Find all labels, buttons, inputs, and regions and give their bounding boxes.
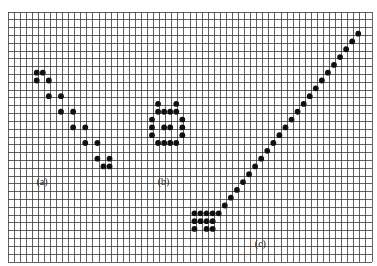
live-cell-dot (167, 124, 173, 130)
pattern-a (34, 70, 113, 170)
live-cell-dot (258, 156, 264, 162)
live-cell-dot (155, 109, 161, 115)
live-cell-dot (173, 140, 179, 146)
live-cell-dot (277, 132, 283, 138)
live-cell-dot (270, 140, 276, 146)
grid-lines (8, 12, 372, 262)
label-b: (b) (158, 176, 170, 188)
live-cell-dot (234, 187, 240, 193)
live-cell-dot (70, 124, 76, 130)
live-cell-dot (70, 109, 76, 115)
live-cell-dot (295, 109, 301, 115)
live-cell-dot (82, 124, 88, 130)
live-cell-dot (204, 210, 210, 216)
live-cell-dot (173, 101, 179, 107)
live-cell-dot (161, 124, 167, 130)
pattern-b (149, 101, 185, 146)
live-cell-dot (107, 164, 113, 170)
pattern-dots (34, 31, 361, 232)
live-cell-dot (173, 109, 179, 115)
live-cell-dot (319, 78, 325, 84)
live-cell-dot (107, 156, 113, 162)
live-cell-dot (289, 117, 295, 123)
live-cell-dot (349, 39, 355, 45)
live-cell-dot (210, 210, 216, 216)
live-cell-dot (216, 210, 222, 216)
live-cell-dot (222, 203, 228, 209)
live-cell-dot (34, 70, 40, 76)
live-cell-dot (228, 195, 234, 201)
live-cell-dot (179, 117, 185, 123)
live-cell-dot (210, 226, 216, 232)
label-a: (a) (36, 176, 47, 188)
live-cell-dot (204, 226, 210, 232)
live-cell-dot (161, 109, 167, 115)
live-cell-dot (264, 148, 270, 154)
live-cell-dot (252, 164, 258, 170)
live-cell-dot (198, 218, 204, 224)
live-cell-dot (95, 156, 101, 162)
live-cell-dot (101, 164, 107, 170)
live-cell-dot (204, 218, 210, 224)
live-cell-dot (179, 124, 185, 130)
live-cell-dot (149, 132, 155, 138)
live-cell-dot (343, 46, 349, 52)
live-cell-dot (149, 124, 155, 130)
live-cell-dot (192, 218, 198, 224)
live-cell-dot (34, 78, 40, 84)
live-cell-dot (240, 179, 246, 185)
live-cell-dot (283, 124, 289, 130)
live-cell-dot (337, 54, 343, 60)
live-cell-dot (167, 140, 173, 146)
live-cell-dot (307, 93, 313, 99)
live-cell-dot (161, 140, 167, 146)
live-cell-dot (40, 70, 46, 76)
live-cell-dot (149, 117, 155, 123)
live-cell-dot (167, 109, 173, 115)
live-cell-dot (210, 218, 216, 224)
live-cell-dot (198, 210, 204, 216)
live-cell-dot (46, 78, 52, 84)
live-cell-dot (155, 101, 161, 107)
live-cell-dot (95, 140, 101, 146)
live-cell-dot (192, 210, 198, 216)
live-cell-dot (179, 132, 185, 138)
pattern-labels: (a) (b) (c) (36, 176, 266, 251)
label-c: (c) (255, 238, 266, 250)
live-cell-dot (246, 171, 252, 177)
live-cell-dot (46, 93, 52, 99)
live-cell-dot (301, 101, 307, 107)
live-cell-dot (58, 109, 64, 115)
live-cell-dot (58, 93, 64, 99)
live-cell-dot (82, 140, 88, 146)
live-cell-dot (155, 140, 161, 146)
live-cell-dot (192, 226, 198, 232)
live-cell-dot (331, 62, 337, 68)
live-cell-dot (325, 70, 331, 76)
cellular-automaton-grid-figure: (a) (b) (c) (0, 0, 377, 266)
live-cell-dot (313, 85, 319, 91)
live-cell-dot (355, 31, 361, 37)
